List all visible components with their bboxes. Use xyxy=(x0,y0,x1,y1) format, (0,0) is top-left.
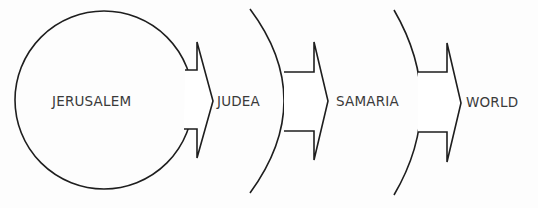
label-world: WORLD xyxy=(466,95,518,109)
arrow-judea-to-samaria xyxy=(284,42,328,160)
label-judea: JUDEA xyxy=(217,94,260,108)
arrow-jerusalem-to-judea xyxy=(184,42,213,158)
arrow-samaria-to-world xyxy=(418,43,461,162)
label-samaria: SAMARIA xyxy=(336,94,399,108)
diagram-canvas: JERUSALEM JUDEA SAMARIA WORLD xyxy=(0,0,538,208)
label-jerusalem: JERUSALEM xyxy=(52,94,131,108)
